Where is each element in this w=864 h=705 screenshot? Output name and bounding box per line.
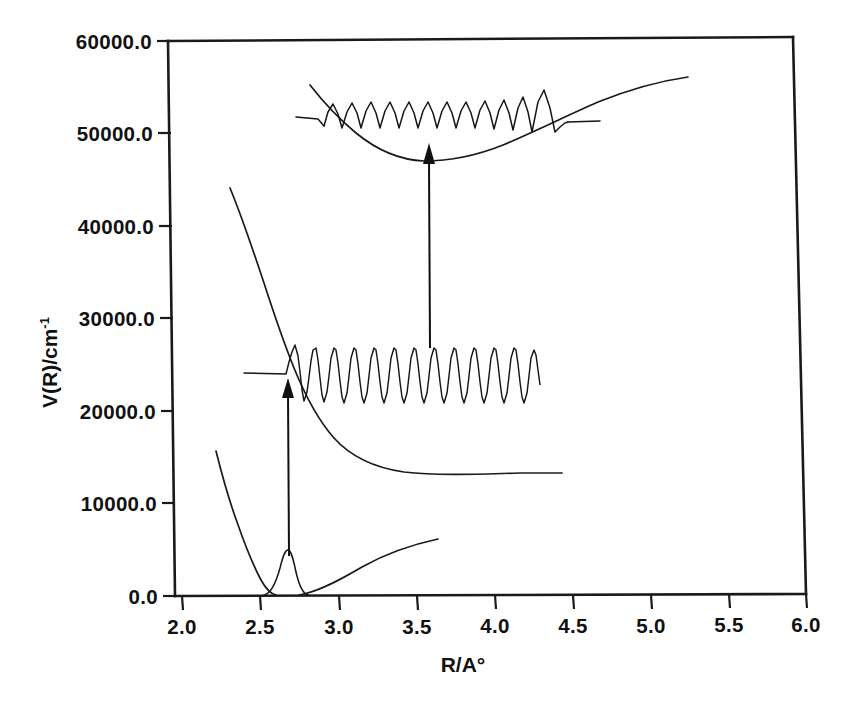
x-tick-4-0: [495, 595, 496, 609]
y-tick-label-50000: 50000.0: [77, 122, 153, 145]
curve-repulsive-dissociative: [230, 188, 562, 474]
y-tick-label-60000: 60000.0: [76, 30, 152, 53]
x-tick-5-0: [651, 595, 652, 609]
x-tick-3-0: [339, 596, 340, 610]
y-axis-title-text: V(R)/cm: [38, 329, 61, 408]
y-axis-title: V(R)/cm-1: [37, 317, 61, 408]
lower-excitation-arrow: [282, 378, 294, 556]
y-tick-label-30000: 30000.0: [79, 307, 155, 330]
x-tick-label-4-0: 4.0: [480, 614, 509, 637]
x-tick-label-2-0: 2.0: [167, 615, 196, 638]
wavefunction-ground-state: [264, 550, 308, 595]
frame-bottom-axis: [175, 594, 806, 596]
x-tick-5-5: [729, 594, 730, 608]
curve-ground-state-left: [216, 451, 276, 595]
wavefunction-continuum-baseline: [244, 373, 286, 374]
wavefunction-upper-baseline-right: [568, 121, 600, 122]
lower-arrow-shaft: [288, 392, 289, 556]
x-tick-6-0: [806, 594, 807, 608]
wavefunction-upper-excited-state: [324, 90, 568, 132]
upper-arrow-head: [423, 143, 435, 164]
curve-upper-excited-state: [310, 77, 688, 161]
wavefunction-upper-baseline-left: [296, 117, 324, 126]
x-tick-label-4-5: 4.5: [558, 614, 587, 637]
wavefunction-continuum: [286, 345, 540, 403]
plot-frame: [168, 37, 806, 596]
potential-energy-curve-figure: 60000.0 50000.0 40000.0 30000.0 20000.0 …: [0, 0, 864, 705]
x-tick-label-3-0: 3.0: [324, 615, 353, 638]
frame-right: [793, 37, 806, 594]
x-tick-3-5: [417, 596, 418, 610]
y-tick-label-20000: 20000.0: [80, 400, 156, 423]
frame-top: [168, 37, 793, 41]
upper-excitation-arrow: [423, 143, 435, 348]
y-axis-title-exponent: -1: [37, 317, 52, 329]
x-tick-label-3-5: 3.5: [402, 615, 431, 638]
svg-text:V(R)/cm-1: V(R)/cm-1: [37, 317, 61, 408]
x-tick-4-5: [573, 595, 574, 609]
y-tick-label-40000: 40000.0: [78, 215, 154, 238]
y-tick-label-10000: 10000.0: [81, 492, 157, 515]
lower-arrow-head: [282, 378, 294, 398]
x-tick-label-6-0: 6.0: [791, 613, 820, 636]
upper-arrow-shaft: [429, 160, 430, 348]
x-tick-label-2-5: 2.5: [245, 615, 274, 638]
plot-canvas: 60000.0 50000.0 40000.0 30000.0 20000.0 …: [0, 0, 864, 705]
x-tick-2-0: [182, 596, 183, 610]
x-tick-label-5-5: 5.5: [714, 613, 743, 636]
y-axis-tick-labels: 60000.0 50000.0 40000.0 30000.0 20000.0 …: [76, 30, 158, 608]
y-tick-label-0: 0.0: [129, 585, 158, 608]
curve-ground-state-right: [299, 539, 438, 595]
x-tick-2-5: [260, 596, 261, 610]
x-axis-tick-labels: 2.0 2.5 3.0 3.5 4.0 4.5 5.0 5.5 6.0: [167, 613, 820, 638]
x-axis-title: R/A°: [441, 653, 486, 676]
x-tick-label-5-0: 5.0: [636, 614, 665, 637]
